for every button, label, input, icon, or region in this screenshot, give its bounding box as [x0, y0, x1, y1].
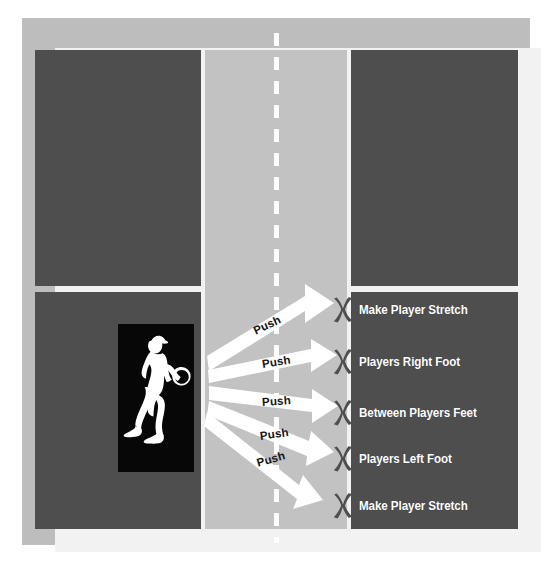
target-label: Make Player Stretch: [359, 303, 468, 317]
court-quadrant-top-left: [35, 50, 201, 286]
player-silhouette-box: [118, 324, 194, 472]
x-mark-icon: [331, 349, 353, 375]
target-row: Between Players Feet: [331, 400, 486, 426]
diagram-canvas: Push Push Push Push Push Make Player Str…: [0, 0, 553, 567]
tennis-player-silhouette-icon: [118, 324, 194, 472]
target-row: Make Player Stretch: [331, 493, 476, 519]
target-label: Between Players Feet: [359, 406, 477, 420]
court-quadrant-top-right: [351, 50, 518, 286]
center-service-line: [274, 33, 279, 543]
target-row: Players Left Foot: [331, 446, 459, 472]
target-label: Players Right Foot: [359, 355, 460, 369]
target-row: Make Player Stretch: [331, 297, 476, 323]
target-label: Make Player Stretch: [359, 499, 468, 513]
target-row: Players Right Foot: [331, 349, 468, 375]
x-mark-icon: [331, 493, 353, 519]
target-label: Players Left Foot: [359, 452, 452, 466]
push-label-3: Push: [262, 394, 292, 408]
x-mark-icon: [331, 446, 353, 472]
x-mark-icon: [331, 400, 353, 426]
x-mark-icon: [331, 297, 353, 323]
